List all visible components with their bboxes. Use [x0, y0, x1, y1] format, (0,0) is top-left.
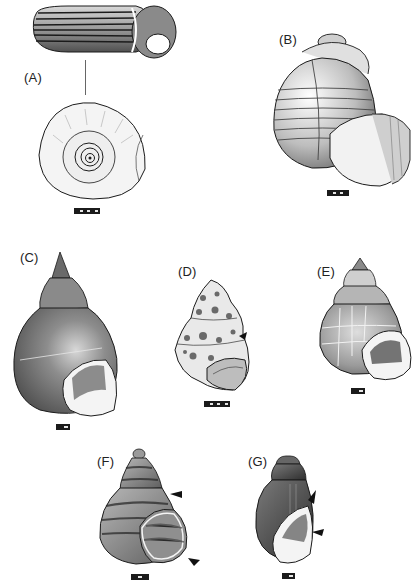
panel-a-connector-line — [85, 60, 86, 95]
panel-a-label: (A) — [24, 70, 42, 85]
panel-b-scale-bar — [327, 190, 349, 196]
panel-d-label: (D) — [178, 264, 197, 279]
shell-f-illustration — [96, 448, 216, 573]
figure-caption-cutoff — [0, 580, 414, 587]
shell-a-lateral-illustration — [28, 0, 188, 70]
panel-f-arrowhead-upper — [170, 491, 182, 498]
panel-g-scale-bar — [282, 573, 295, 579]
shell-c-illustration — [10, 250, 120, 420]
shell-e-illustration — [316, 256, 414, 391]
shell-b-illustration — [272, 30, 414, 190]
shell-g-illustration — [250, 454, 340, 579]
panel-g-arrowhead-lower — [312, 529, 324, 536]
shell-d-illustration — [173, 278, 263, 393]
shell-a-apical-illustration — [35, 95, 155, 205]
panel-f-arrowhead-lower — [188, 558, 200, 566]
panel-a-scale-bar — [74, 208, 100, 214]
panel-e-scale-bar — [351, 388, 365, 394]
panel-d-scale-bar — [204, 401, 230, 407]
panel-c-scale-bar — [56, 424, 70, 430]
